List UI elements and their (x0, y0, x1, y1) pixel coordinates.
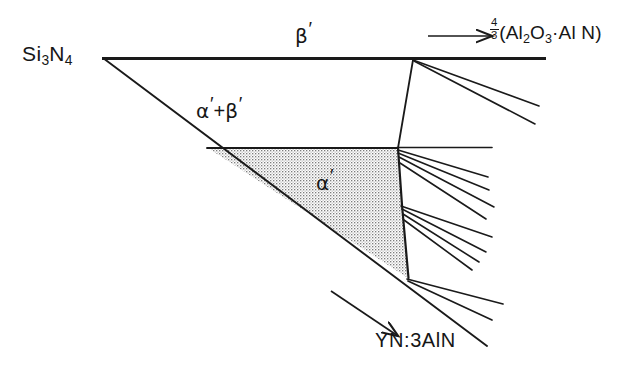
si3n4-n: N (49, 42, 65, 65)
fraction-denominator: 3 (490, 29, 499, 42)
tieline-topnode-fan-1 (413, 60, 539, 106)
diagram-canvas (0, 0, 621, 367)
beta-prime-mark: ′ (238, 93, 242, 114)
alpha-prime-shaded-region (208, 148, 408, 278)
label-si3n4: Si3N4 (22, 43, 73, 68)
edge-si3n4-to-yn3aln-diagonal (103, 58, 487, 346)
si3n4-si: Si (22, 42, 41, 65)
si3n4-sub-4: 4 (65, 52, 73, 68)
fraction-four-thirds: 43 (490, 17, 499, 41)
tieline-bottomnode-to-right-1 (407, 279, 503, 304)
al-sub-2: 2 (523, 32, 530, 46)
alpha-prime-mark: ′ (329, 165, 333, 186)
label-alpha-prime-plus-beta-prime: α′+β′ (196, 94, 242, 121)
beta-glyph: β (295, 24, 308, 48)
label-alpha-prime: α′ (316, 166, 334, 193)
label-al2o3-aln: 43(Al2O3·Al N) (490, 18, 602, 45)
alpha-glyph: α (196, 99, 209, 123)
close-paren: ) (595, 22, 602, 43)
tieline-topnode-fan-2 (414, 61, 535, 124)
o-symbol: O (530, 22, 545, 43)
beta-glyph: β (225, 99, 238, 123)
phase-diagram-figure: Si3N4 β′ 43(Al2O3·Al N) α′+β′ α′ YN:3AlN (0, 0, 621, 367)
alpha-glyph: α (316, 171, 329, 195)
label-beta-prime: β′ (295, 19, 312, 46)
tieline-bottomnode-to-right-2 (408, 281, 492, 320)
plus-sign: + (214, 100, 226, 122)
label-yn3aln: YN:3AlN (375, 330, 456, 350)
aln-symbol: Al N (559, 22, 596, 43)
fraction-numerator: 4 (490, 17, 499, 29)
o-sub-3: 3 (545, 32, 552, 46)
al-symbol: Al (506, 22, 523, 43)
beta-prime-mark: ′ (308, 18, 312, 39)
fan-lower-line-3 (403, 214, 479, 262)
tieline-topnode-to-alpha-top (398, 60, 413, 148)
